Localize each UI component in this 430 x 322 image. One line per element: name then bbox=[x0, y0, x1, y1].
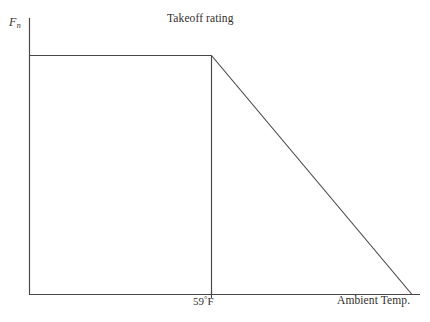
thrust-lapse-segment bbox=[212, 56, 413, 295]
y-axis-label-subscript: n bbox=[17, 21, 21, 30]
x-axis-tick-label-59f: 59°F bbox=[193, 295, 214, 307]
y-axis-label: Fn bbox=[9, 16, 21, 30]
x-axis-label: Ambient Temp. bbox=[337, 295, 410, 307]
y-axis-label-symbol: F bbox=[9, 15, 16, 29]
chart-canvas bbox=[0, 0, 430, 322]
chart-title: Takeoff rating bbox=[167, 13, 233, 25]
takeoff-rating-chart: Takeoff rating Fn 59°F Ambient Temp. bbox=[0, 0, 430, 322]
tick-unit: F bbox=[207, 295, 213, 307]
tick-value: 59 bbox=[193, 295, 204, 307]
